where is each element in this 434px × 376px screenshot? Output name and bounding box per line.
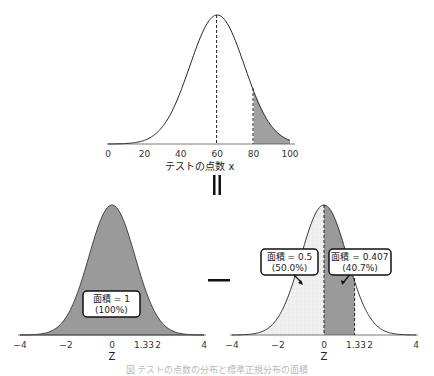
tick-label: 1.33 bbox=[346, 340, 366, 350]
minus-symbol bbox=[208, 279, 230, 282]
tick-label: −2 bbox=[271, 340, 284, 350]
svg-text:面積 = 0.407: 面積 = 0.407 bbox=[331, 251, 388, 262]
x-axis-label: Z bbox=[321, 351, 328, 362]
tick-label: 4 bbox=[201, 340, 207, 350]
tick-label: 2 bbox=[155, 340, 161, 350]
svg-text:面積 = 0.5: 面積 = 0.5 bbox=[267, 251, 313, 262]
left-plot: −4 −2 0 1.33 2 4 Z 面積 = 1 (100%) bbox=[13, 205, 207, 362]
tick-label: 4 bbox=[413, 340, 419, 350]
upper-tail-shade bbox=[254, 91, 290, 144]
tick-label: −4 bbox=[13, 340, 27, 350]
top-plot: 0 20 40 60 80 100 テストの点数 x bbox=[105, 15, 299, 172]
figure-caption: 図 テストの点数の分布と標準正規分布の面積 bbox=[126, 364, 309, 375]
x-axis-label: テストの点数 x bbox=[165, 160, 234, 172]
tick-label: 20 bbox=[139, 149, 151, 159]
svg-text:面積 = 1: 面積 = 1 bbox=[93, 293, 130, 304]
tick-label: 60 bbox=[211, 149, 223, 159]
svg-text:(40.7%): (40.7%) bbox=[342, 263, 378, 273]
tick-label: −4 bbox=[225, 340, 239, 350]
tick-label: 80 bbox=[248, 149, 260, 159]
tick-label: 1.33 bbox=[134, 340, 154, 350]
tick-label: 40 bbox=[175, 149, 187, 159]
x-axis-label: Z bbox=[109, 351, 116, 362]
figure: 0 20 40 60 80 100 テストの点数 x −4 −2 0 1.33 … bbox=[0, 0, 434, 376]
right-plot: −4 −2 0 1.33 2 4 Z 面積 = 0.5 (50.0%) 面積 =… bbox=[225, 205, 419, 362]
equivalence-symbol bbox=[213, 175, 221, 195]
area-label-box: 面積 = 1 (100%) bbox=[83, 291, 140, 317]
tick-label: 0 bbox=[321, 340, 327, 350]
tick-label: 100 bbox=[281, 149, 298, 159]
svg-text:(50.0%): (50.0%) bbox=[272, 263, 308, 273]
tick-label: 0 bbox=[109, 340, 115, 350]
svg-text:(100%): (100%) bbox=[95, 305, 128, 315]
tick-label: −2 bbox=[59, 340, 72, 350]
tick-label: 2 bbox=[367, 340, 373, 350]
tick-label: 0 bbox=[105, 149, 111, 159]
